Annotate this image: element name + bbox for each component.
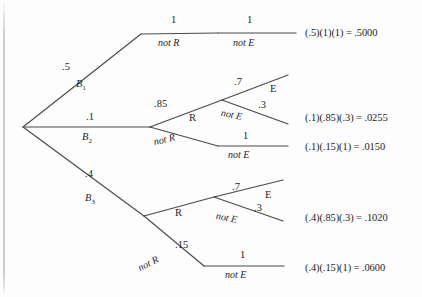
node-label-b2: B2 (82, 132, 92, 145)
node-label-b3: B3 (85, 193, 95, 206)
prob-b2-notr-note: 1 (243, 131, 248, 142)
prob-b3-notr: .15 (175, 240, 188, 251)
edge-b2-r-e (222, 75, 288, 100)
prob-b1: .5 (62, 62, 70, 73)
prob-b1-notr: 1 (171, 15, 176, 26)
event-b2-notr-note: not E (228, 150, 249, 160)
prob-b2: .1 (86, 112, 94, 123)
result-b1: (.5)(1)(1) = .5000 (305, 28, 377, 39)
prob-b2-r: .85 (154, 99, 167, 110)
prob-b3-r-note: .3 (254, 203, 262, 214)
edge-b1-notr (141, 33, 218, 34)
event-b3-r-e: E (265, 190, 271, 201)
event-b2-r: R (189, 113, 196, 124)
event-b2-r-e: E (270, 84, 276, 95)
event-b1-note: not E (233, 38, 254, 48)
prob-b1-note: 1 (247, 15, 252, 26)
event-b3-notr-note: not E (225, 270, 246, 280)
result-b2-r-note: (.1)(.85)(.3) = .0255 (305, 113, 388, 124)
result-b2-notr-note: (.1)(.15)(1) = .0150 (305, 142, 385, 153)
result-b3-notr-note: (.4)(.15)(1) = .0600 (305, 263, 385, 274)
prob-b3-r-e: .7 (232, 182, 240, 193)
result-b3-r-note: (.4)(.85)(.3) = .1020 (305, 213, 388, 224)
node-label-b1: B1 (76, 79, 86, 92)
prob-b2-r-e: .7 (234, 77, 242, 88)
probability-tree-figure: .5 B1 1 not R 1 not E (.5)(1)(1) = .5000… (0, 0, 422, 297)
edge-b3-r-e (214, 180, 283, 197)
prob-b2-r-note: .3 (258, 100, 266, 111)
event-b3-r: R (175, 208, 182, 219)
prob-b3-notr-note: 1 (240, 250, 245, 261)
event-b1-notr: not R (158, 38, 179, 48)
prob-b3: .4 (85, 169, 93, 180)
